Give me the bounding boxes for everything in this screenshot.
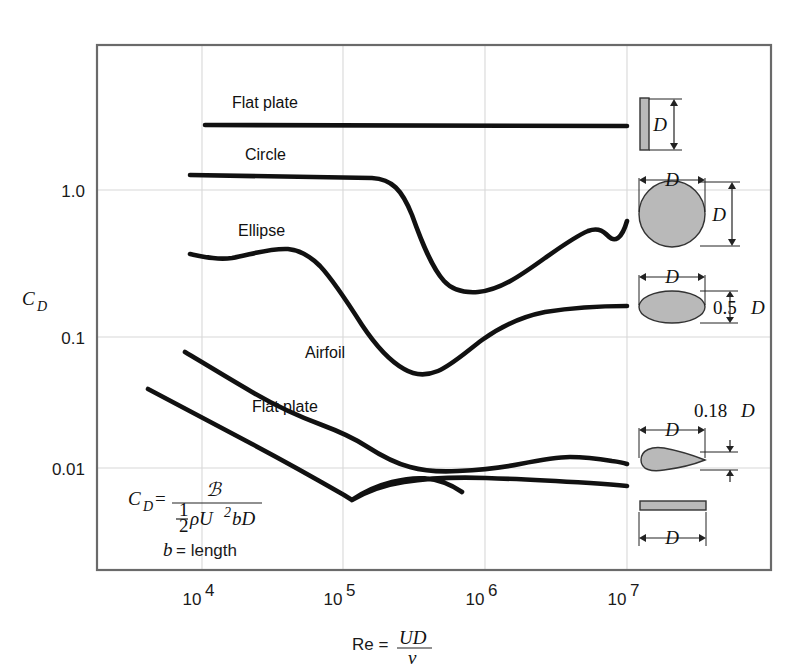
vertical-plate-arrow-up <box>670 99 678 106</box>
label-airfoil: Airfoil <box>305 344 345 361</box>
formula-numerator: ℬ <box>206 479 223 500</box>
ellipse-dim-label-thickness-num: 0.5 <box>713 297 737 318</box>
airfoil-dim-label-chord: D <box>664 419 679 440</box>
xtick-1e5-mantissa: 10 <box>324 590 343 609</box>
xtick-1e6-mantissa: 10 <box>466 590 485 609</box>
vertical-plate-dim-label: D <box>652 114 667 135</box>
horizontal-plate-arrow-right <box>699 534 706 542</box>
y-axis-title: C D <box>22 288 47 314</box>
legend-shape-airfoil: D 0.18 D <box>639 400 755 482</box>
x-axis-title: Re = UD ν <box>352 627 432 668</box>
y-axis-title-main: C <box>22 288 35 309</box>
xtick-1e5-exponent: 5 <box>346 581 355 600</box>
ellipse-arrow-left <box>639 273 646 281</box>
curve-ellipse <box>190 249 627 374</box>
legend-shape-horizontal-flat-plate: D <box>639 501 706 548</box>
y-axis-title-sub: D <box>36 299 47 314</box>
x-axis-title-prefix: Re = <box>352 635 388 654</box>
airfoil-arrow-left <box>639 426 646 434</box>
formula-note-var: b <box>163 539 173 560</box>
ytick-1p0: 1.0 <box>61 182 85 201</box>
x-axis-title-numerator: UD <box>399 627 427 648</box>
formula-denom-tail: bD <box>232 508 256 529</box>
vertical-plate-arrow-down <box>670 143 678 150</box>
airfoil-arrow-down-upper <box>726 446 734 452</box>
xtick-1e4-exponent: 4 <box>205 581 214 600</box>
y-tick-labels: 1.0 0.1 0.01 <box>52 182 85 479</box>
circle-dim-label-width: D <box>664 169 679 190</box>
xtick-1e7-mantissa: 10 <box>608 590 627 609</box>
legend-shape-circle: D D <box>639 169 740 247</box>
airfoil-arrow-up-lower <box>726 470 734 476</box>
xtick-1e4-mantissa: 10 <box>183 590 202 609</box>
x-tick-labels: 10 4 10 5 10 6 10 7 <box>183 581 640 609</box>
airfoil-arrow-right <box>698 426 705 434</box>
formula-equals: = <box>155 488 166 509</box>
xtick-1e7-exponent: 7 <box>630 581 639 600</box>
horizontal-plate-body <box>640 501 706 510</box>
formula-denom-exp: 2 <box>224 505 231 520</box>
airfoil-thickness-label-D: D <box>740 400 755 421</box>
ytick-0p01: 0.01 <box>52 460 85 479</box>
xtick-1e6-exponent: 6 <box>488 581 497 600</box>
cd-formula: C D = ℬ 1 2 ρU 2 bD b = length <box>128 479 262 560</box>
vertical-plate-body <box>640 98 649 150</box>
drag-coefficient-figure: Flat plate Circle Ellipse Airfoil Flat p… <box>0 0 798 668</box>
circle-arrow-up <box>728 182 736 189</box>
curve-flat-plate-normal <box>205 125 627 126</box>
x-axis-title-denominator: ν <box>408 647 417 668</box>
formula-lhs-main: C <box>128 488 141 509</box>
label-flat-plate-top: Flat plate <box>232 94 298 111</box>
ellipse-arrow-right <box>698 273 705 281</box>
legend-shape-ellipse: D 0.5 D <box>639 266 765 323</box>
circle-dim-label-height: D <box>711 204 726 225</box>
ellipse-dim-label-width: D <box>664 266 679 287</box>
chart-canvas: Flat plate Circle Ellipse Airfoil Flat p… <box>0 0 798 668</box>
circle-arrow-down <box>728 239 736 246</box>
label-circle: Circle <box>245 146 286 163</box>
formula-denom-rest: ρU <box>189 508 214 529</box>
label-flat-plate-bottom: Flat plate <box>252 398 318 415</box>
formula-denom-frac-den: 2 <box>179 515 189 536</box>
label-ellipse: Ellipse <box>238 222 285 239</box>
curves <box>148 125 627 500</box>
horizontal-plate-arrow-left <box>639 534 646 542</box>
airfoil-thickness-label-num: 0.18 <box>694 400 727 421</box>
legend-shape-vertical-flat-plate: D <box>640 98 682 150</box>
horizontal-plate-dim-label: D <box>664 527 679 548</box>
ytick-0p1: 0.1 <box>61 329 85 348</box>
ellipse-dim-label-thickness-D: D <box>750 297 765 318</box>
circle-body <box>639 181 705 247</box>
circle-arrow-right <box>698 176 705 184</box>
ellipse-body <box>639 291 705 323</box>
circle-arrow-left <box>639 176 646 184</box>
airfoil-body <box>641 448 705 471</box>
formula-note-text: = length <box>176 541 237 560</box>
formula-lhs-sub: D <box>142 499 153 514</box>
